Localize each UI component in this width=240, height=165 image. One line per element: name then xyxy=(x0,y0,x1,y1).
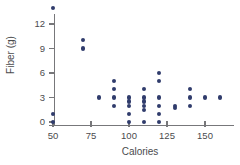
data-point xyxy=(157,112,161,116)
data-point xyxy=(51,6,55,10)
y-ticklabel: 12 xyxy=(22,19,45,29)
y-tick-9 xyxy=(49,48,55,49)
x-axis-line xyxy=(49,125,234,126)
y-axis-label: Fiber (g) xyxy=(5,25,16,85)
data-point xyxy=(112,79,116,83)
y-ticklabel-wrapper: 12 xyxy=(22,19,45,29)
data-point xyxy=(142,87,146,91)
data-point xyxy=(112,104,116,108)
data-point xyxy=(173,106,177,110)
data-point xyxy=(157,104,161,108)
x-ticklabel-wrapper: 100 xyxy=(114,130,144,141)
data-point xyxy=(188,95,192,99)
data-point xyxy=(112,95,116,99)
x-ticklabel: 50 xyxy=(38,130,68,141)
y-axis-label-wrapper: Fiber (g) xyxy=(5,25,19,85)
data-point xyxy=(142,108,146,112)
y-ticklabel: 3 xyxy=(22,93,45,103)
data-point xyxy=(157,95,161,99)
y-ticklabel: 9 xyxy=(22,44,45,54)
data-point xyxy=(188,87,192,91)
y-tick-3 xyxy=(49,97,55,98)
x-ticklabel: 125 xyxy=(152,130,182,141)
data-point xyxy=(157,71,161,75)
data-point xyxy=(97,95,101,99)
data-point xyxy=(81,38,85,42)
y-ticklabel-wrapper: 6 xyxy=(22,68,45,78)
x-tick-125 xyxy=(166,121,167,127)
y-ticklabel: 0 xyxy=(22,117,45,127)
x-ticklabel: 150 xyxy=(190,130,220,141)
x-ticklabel-wrapper: 150 xyxy=(190,130,220,141)
data-point xyxy=(203,95,207,99)
plot-area: 036912 5075100125150 Calories Fiber (g) xyxy=(0,0,240,165)
data-point xyxy=(218,95,222,99)
x-tick-150 xyxy=(204,121,205,127)
x-ticklabel-wrapper: 50 xyxy=(38,130,68,141)
data-point xyxy=(81,46,85,50)
data-point xyxy=(112,87,116,91)
data-point xyxy=(188,104,192,108)
data-point xyxy=(127,112,131,116)
x-tick-75 xyxy=(90,121,91,127)
data-point xyxy=(127,104,131,108)
scatter-plot-figure: 036912 5075100125150 Calories Fiber (g) xyxy=(0,0,240,165)
data-point xyxy=(157,120,161,124)
y-ticklabel-wrapper: 9 xyxy=(22,44,45,54)
y-tick-12 xyxy=(49,23,55,24)
x-ticklabel-wrapper: 125 xyxy=(152,130,182,141)
data-point xyxy=(127,120,131,124)
data-point xyxy=(142,120,146,124)
x-axis-label: Calories xyxy=(85,146,195,157)
data-point xyxy=(51,112,55,116)
y-ticklabel-wrapper: 0 xyxy=(22,117,45,127)
y-tick-6 xyxy=(49,72,55,73)
x-ticklabel: 100 xyxy=(114,130,144,141)
y-axis-line xyxy=(54,14,55,126)
y-ticklabel: 6 xyxy=(22,68,45,78)
x-ticklabel: 75 xyxy=(76,130,106,141)
x-ticklabel-wrapper: 75 xyxy=(76,130,106,141)
data-point xyxy=(157,79,161,83)
y-ticklabel-wrapper: 3 xyxy=(22,93,45,103)
